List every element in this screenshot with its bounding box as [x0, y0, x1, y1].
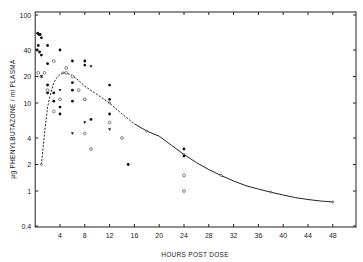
curve-solid-segment: [134, 124, 332, 202]
y-tick-label: 0.4: [21, 223, 31, 230]
point-open: [77, 89, 80, 92]
point-open: [183, 190, 186, 193]
point-filled: [83, 60, 86, 63]
point-filled: [71, 81, 74, 84]
point-open: [65, 71, 68, 74]
x-tick-label: 4: [58, 232, 62, 239]
x-tick-label: 48: [329, 232, 337, 239]
point-filled: [108, 113, 111, 116]
point-filled: [59, 113, 62, 116]
point-open: [121, 137, 124, 140]
point-filled: [46, 62, 49, 65]
x-tick-label: 44: [304, 232, 312, 239]
x-axis-ticks: 4812162024283236404448: [58, 12, 337, 239]
point-filled: [90, 118, 93, 121]
mean-concentration-curve: [40, 72, 333, 203]
x-tick-label: 36: [255, 232, 263, 239]
point-filled: [71, 89, 74, 92]
point-open: [183, 174, 186, 177]
point-open: [83, 132, 86, 135]
point-filled: [83, 64, 86, 67]
point-triangle: [89, 65, 92, 68]
plot-frame: [35, 12, 356, 227]
point-filled: [71, 60, 74, 63]
y-tick-label: 2: [27, 161, 31, 168]
point-triangle: [83, 121, 86, 124]
point-filled: [46, 92, 49, 95]
point-filled: [59, 106, 62, 109]
point-open: [90, 148, 93, 151]
y-tick-label: 20: [23, 73, 31, 80]
point-open: [46, 89, 49, 92]
curve-marker: [40, 164, 42, 166]
point-open: [108, 121, 111, 124]
point-filled: [40, 54, 43, 57]
point-filled: [38, 51, 41, 54]
y-axis-title: µg PHENYLBUTAZONE / ml PLASMA: [9, 59, 17, 179]
point-filled: [36, 49, 39, 52]
x-tick-label: 24: [180, 232, 188, 239]
curve-dashed-segment: [41, 73, 134, 165]
curve-marker: [146, 130, 148, 132]
point-triangle: [108, 128, 111, 131]
point-filled: [183, 155, 186, 158]
point-filled: [127, 163, 130, 166]
point-filled: [46, 44, 49, 47]
x-tick-label: 32: [230, 232, 238, 239]
point-open: [52, 60, 55, 63]
x-tick-label: 8: [83, 232, 87, 239]
pharmacokinetic-chart: 4812162024283236404448 0.4124102040100 H…: [0, 0, 363, 262]
curve-marker: [332, 201, 334, 203]
point-filled: [39, 33, 42, 36]
point-triangle: [71, 132, 74, 135]
curve-marker: [270, 191, 272, 193]
x-tick-label: 28: [205, 232, 213, 239]
point-filled: [71, 100, 74, 103]
point-open: [83, 98, 86, 101]
point-open: [37, 71, 40, 74]
data-points: [36, 32, 186, 193]
y-tick-label: 1: [27, 188, 31, 195]
x-axis-title: HOURS POST DOSE: [161, 251, 229, 258]
point-open: [52, 110, 55, 113]
point-filled: [52, 92, 55, 95]
point-triangle: [58, 89, 61, 92]
point-open: [43, 71, 46, 74]
point-filled: [108, 84, 111, 87]
x-tick-label: 20: [155, 232, 163, 239]
y-tick-label: 40: [23, 47, 31, 54]
point-filled: [40, 36, 43, 39]
point-filled: [183, 148, 186, 151]
point-open: [65, 67, 68, 70]
x-tick-label: 16: [131, 232, 139, 239]
curve-marker: [109, 102, 111, 104]
y-tick-label: 4: [27, 135, 31, 142]
curve-marker: [62, 72, 64, 74]
point-filled: [108, 98, 111, 101]
point-open: [71, 75, 74, 78]
point-filled: [52, 100, 55, 103]
point-open: [59, 98, 62, 101]
y-tick-label: 100: [20, 12, 32, 19]
curve-marker: [220, 175, 222, 177]
x-tick-label: 40: [279, 232, 287, 239]
point-filled: [37, 44, 40, 47]
x-tick-label: 12: [106, 232, 114, 239]
y-tick-label: 10: [23, 100, 31, 107]
point-filled: [59, 49, 62, 52]
y-axis-ticks: 0.4124102040100: [20, 12, 356, 230]
